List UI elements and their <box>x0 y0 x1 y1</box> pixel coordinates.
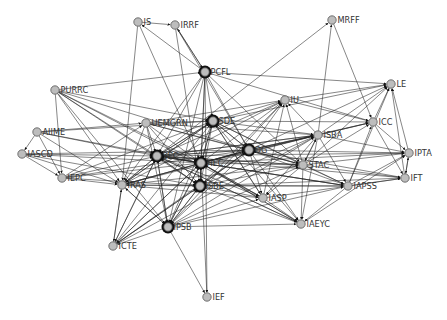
node-label: IU <box>291 95 299 105</box>
edge-icc-to-ipta <box>376 125 405 150</box>
node-uemgrn[interactable]: UEMGRN <box>142 118 188 128</box>
node-circle[interactable] <box>109 242 117 250</box>
edge-is-to-iras <box>122 26 137 180</box>
node-circle[interactable] <box>18 150 26 158</box>
node-circle[interactable] <box>387 80 395 88</box>
node-ief[interactable]: IEF <box>203 292 225 302</box>
node-label: IAEYC <box>307 219 331 229</box>
node-circle[interactable] <box>401 174 409 182</box>
node-circle[interactable] <box>33 128 41 136</box>
node-iu[interactable]: IU <box>281 95 299 105</box>
node-ipta[interactable]: IPTA <box>405 148 432 158</box>
node-circle[interactable] <box>142 119 150 127</box>
node-label: IS <box>144 17 152 27</box>
node-label: PURRC <box>61 85 89 95</box>
node-isbe[interactable]: ISBE <box>194 180 224 193</box>
edge-ipsb-to-isbe <box>171 190 198 224</box>
node-icte[interactable]: ICTE <box>109 241 137 251</box>
edge-iu-to-icc <box>289 101 368 121</box>
edge-irrf-to-pcfl <box>177 29 202 68</box>
edge-ipsb-to-ief <box>170 231 205 293</box>
node-iaeyc[interactable]: IAEYC <box>297 219 330 229</box>
node-isba[interactable]: ISBA <box>314 130 343 140</box>
node-label: IASP <box>269 193 287 203</box>
node-label: IRAS <box>128 180 147 190</box>
node-circle[interactable] <box>134 18 142 26</box>
node-label: STAC <box>309 160 330 170</box>
node-og[interactable]: OG <box>243 144 268 157</box>
node-label: ICTE <box>119 241 137 251</box>
node-label: IAPSS <box>354 181 377 191</box>
edge-uemgrn-to-ipsb <box>147 127 167 222</box>
node-circle[interactable] <box>369 118 377 126</box>
node-circle[interactable] <box>281 96 289 104</box>
node-circle[interactable] <box>164 223 172 231</box>
node-circle[interactable] <box>51 86 59 94</box>
node-label: AIIME <box>43 127 66 137</box>
node-circle[interactable] <box>405 149 413 157</box>
node-circle[interactable] <box>297 220 305 228</box>
edge-sde-to-le <box>217 85 386 120</box>
node-circle[interactable] <box>153 152 161 160</box>
edge-icte-to-isbe <box>116 189 196 244</box>
node-circle[interactable] <box>201 68 209 76</box>
node-label: MRFF <box>338 15 360 25</box>
node-icc[interactable]: ICC <box>369 117 393 127</box>
edge-ift-to-ipta <box>406 158 409 174</box>
node-irrf[interactable]: IRRF <box>171 20 199 30</box>
node-sec[interactable]: SEC <box>151 150 179 163</box>
node-circle[interactable] <box>197 159 205 167</box>
edge-irrf-to-og <box>177 29 246 146</box>
node-label: ICC <box>379 117 393 127</box>
edge-mrff-to-icc <box>334 24 372 118</box>
node-circle[interactable] <box>196 182 204 190</box>
node-circle[interactable] <box>328 16 336 24</box>
node-circle[interactable] <box>259 194 267 202</box>
edge-stac-to-iasp <box>267 168 300 195</box>
node-circle[interactable] <box>209 117 217 125</box>
node-label: IRRF <box>181 20 200 30</box>
edge-og-to-sde <box>217 124 246 147</box>
edge-icte-to-iras <box>114 190 122 242</box>
node-iasp[interactable]: IASP <box>259 193 287 203</box>
node-circle[interactable] <box>245 146 253 154</box>
node-circle[interactable] <box>344 182 352 190</box>
node-ipsb[interactable]: IPSB <box>162 221 193 234</box>
node-stac[interactable]: STAC <box>299 160 330 170</box>
edge-iapss-to-le <box>350 88 390 182</box>
node-iascd[interactable]: IASCD <box>18 149 53 159</box>
node-label: IPTA <box>415 148 433 158</box>
node-iepc[interactable]: IEPC <box>58 173 86 183</box>
node-pcfl[interactable]: PCFL <box>199 66 231 79</box>
node-label: ISBE <box>206 181 224 191</box>
node-mrff[interactable]: MRFF <box>328 15 360 25</box>
node-ift[interactable]: IFT <box>401 173 424 183</box>
node-purrc[interactable]: PURRC <box>51 85 89 95</box>
node-label: UEMGRN <box>152 118 188 128</box>
edge-iascd-to-iepc <box>26 156 58 175</box>
node-circle[interactable] <box>118 181 126 189</box>
edge-og-to-iapss <box>253 151 344 184</box>
node-iras[interactable]: IRAS <box>118 180 146 190</box>
node-hec[interactable]: HEC <box>195 157 224 170</box>
node-label: ISBA <box>324 130 343 140</box>
node-le[interactable]: LE <box>387 79 406 89</box>
node-label: IEF <box>213 292 226 302</box>
edge-isba-to-iu <box>288 103 315 132</box>
node-iapss[interactable]: IAPSS <box>344 181 377 191</box>
node-circle[interactable] <box>171 21 179 29</box>
node-label: IASCD <box>28 149 53 159</box>
node-sde[interactable]: SDE <box>207 115 236 128</box>
node-circle[interactable] <box>314 131 322 139</box>
node-circle[interactable] <box>203 293 211 301</box>
edge-stac-to-iaeyc <box>301 169 303 219</box>
edge-pcfl-to-sec <box>159 76 203 152</box>
node-circle[interactable] <box>58 174 66 182</box>
node-aiime[interactable]: AIIME <box>33 127 65 137</box>
edge-aiime-to-iascd <box>25 135 35 150</box>
edge-iapss-to-iaeyc <box>305 189 345 221</box>
node-label: IFT <box>411 173 424 183</box>
node-label: HEC <box>207 158 224 168</box>
node-circle[interactable] <box>299 161 307 169</box>
node-label: OG <box>255 145 268 155</box>
